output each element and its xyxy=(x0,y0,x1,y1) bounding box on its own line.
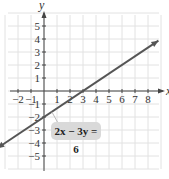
x-tick-label: 4 xyxy=(93,93,99,105)
coordinate-plane: −2−11234567854321−1−2−3−4−5xy 2x − 3y = … xyxy=(0,0,169,179)
y-axis-label: y xyxy=(38,0,45,12)
x-tick-label: 6 xyxy=(119,93,125,105)
y-tick-label: 1 xyxy=(35,72,41,84)
x-tick-label: 3 xyxy=(80,93,86,105)
y-tick-label: 5 xyxy=(35,20,41,32)
y-tick-label: −4 xyxy=(28,137,40,149)
y-tick-label: 3 xyxy=(35,46,41,58)
y-axis-arrow-icon xyxy=(42,11,47,18)
x-tick-label: 8 xyxy=(145,93,151,105)
graph-svg: −2−11234567854321−1−2−3−4−5xy xyxy=(0,0,169,179)
equation-label: 2x − 3y = 6 xyxy=(51,122,101,140)
y-tick-label: −1 xyxy=(28,98,40,110)
y-tick-label: −5 xyxy=(28,150,40,162)
y-tick-label: 2 xyxy=(35,59,41,71)
x-tick-label: 7 xyxy=(132,93,138,105)
x-tick-label: −2 xyxy=(12,93,24,105)
x-tick-label: 5 xyxy=(106,93,112,105)
x-tick-label: 1 xyxy=(54,93,60,105)
y-tick-label: 4 xyxy=(35,33,41,45)
x-axis-label: x xyxy=(165,84,169,98)
